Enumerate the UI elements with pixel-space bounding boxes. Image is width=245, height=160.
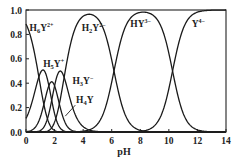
y-tick-label: 0.2 <box>10 103 22 113</box>
curve-h3y <box>26 71 226 132</box>
label-h5y: H5Y+ <box>43 58 65 70</box>
label-h2y2: H2Y2− <box>82 22 107 34</box>
x-tick-label: 0 <box>24 136 29 146</box>
y-tick-label: 0.6 <box>10 54 22 64</box>
y-tick-label: 0.8 <box>10 30 22 40</box>
label-h6y2: H6Y2+ <box>30 22 55 34</box>
label-h3y: H3Y− <box>72 75 94 87</box>
x-tick-label: 14 <box>221 136 231 146</box>
x-tick-label: 10 <box>164 136 174 146</box>
x-axis-title: pH <box>117 146 131 157</box>
label-hy3: HY3− <box>130 18 151 29</box>
x-tick-label: 2 <box>52 136 57 146</box>
x-tick-label: 4 <box>81 136 86 146</box>
y-tick-label: 0.0 <box>10 128 22 138</box>
curve-hy3 <box>26 12 226 132</box>
curve-h4y <box>26 82 226 132</box>
label-y4: Y4− <box>192 18 206 29</box>
species-distribution-chart: 024681012140.00.20.40.60.81.0 H6Y2+H5Y+H… <box>0 0 245 160</box>
label-h4y: H4Y <box>76 95 94 106</box>
x-tick-label: 12 <box>193 136 203 146</box>
y-tick-label: 0.4 <box>10 79 22 89</box>
curve-h2y2 <box>26 14 226 132</box>
y-tick-label: 1.0 <box>10 6 22 16</box>
x-tick-label: 6 <box>109 136 114 146</box>
x-tick-label: 8 <box>138 136 143 146</box>
